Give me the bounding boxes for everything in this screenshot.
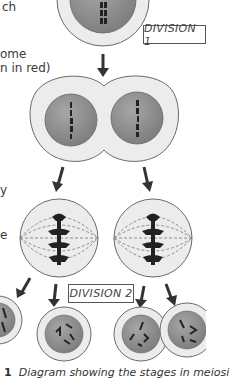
arrow-down-left-icon <box>58 167 63 185</box>
parent-cell <box>57 0 149 46</box>
division-2-label: DIVISION 2 <box>68 284 134 303</box>
figure-caption: 1 Diagram showing the stages in meiosi <box>4 366 229 379</box>
caption-text: Diagram showing the stages in meiosi <box>19 366 230 379</box>
side-text-fragment: e <box>0 228 7 242</box>
arrow-icon <box>22 278 30 292</box>
daughter-cell-4 <box>160 303 206 357</box>
daughter-cell-2 <box>37 307 91 361</box>
side-text-fragment: n in red) <box>0 61 51 75</box>
dividing-cell <box>30 76 178 161</box>
spindle-cell-right <box>114 199 192 277</box>
caption-number: 1 <box>4 366 12 379</box>
side-text-fragment: ch <box>2 0 16 14</box>
side-text-fragment: ome <box>0 47 26 61</box>
spindle-cell-left <box>20 199 98 277</box>
division-1-label: DIVISION 1 <box>143 25 206 44</box>
arrow-head-icon <box>97 68 109 77</box>
side-text-fragment: y <box>0 183 7 197</box>
daughter-cell-1 <box>0 296 22 344</box>
